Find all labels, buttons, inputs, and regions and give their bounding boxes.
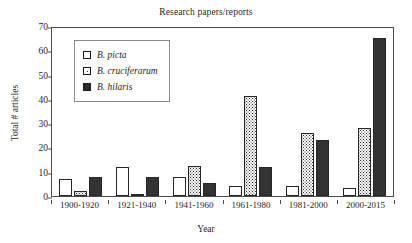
bar [343,188,356,197]
legend-label: B. picta [97,50,127,60]
bar [358,128,371,196]
y-tick-label: 20 [39,145,49,155]
chart-figure: Research papers/reports Total # articles… [0,0,412,243]
x-axis-ticks: 1900-19201921-19401941-19601961-19801981… [51,200,394,210]
bar [316,140,329,196]
x-tick-mark [280,200,281,204]
legend-swatch-icon [83,51,91,59]
bar [301,133,314,196]
bar [188,166,201,196]
x-tick-label: 1900-1920 [51,200,108,210]
y-axis-label: Total # articles [10,65,20,161]
x-tick-mark [337,200,338,204]
x-tick-label: 2000-2015 [337,200,394,210]
legend-label: B. hilaris [97,82,132,92]
y-tick-label: 50 [39,72,49,82]
bar [89,177,102,196]
legend-swatch-icon [83,67,91,75]
legend-swatch-icon [83,83,91,91]
bar [286,186,299,196]
y-tick-label: 40 [39,96,49,106]
chart-legend: B. pictaB. cruciferarumB. hilaris [74,40,170,102]
bar-group [336,28,393,196]
bar [173,177,186,196]
x-tick-mark [108,200,109,204]
y-tick-label: 60 [39,48,49,58]
bar [116,167,129,196]
y-tick-label: 10 [39,169,49,179]
y-tick-mark [48,198,52,199]
x-tick-mark [165,200,166,204]
bar [229,186,242,196]
bar [59,179,72,196]
bar-group [279,28,336,196]
x-tick-label: 1981-2000 [280,200,337,210]
x-tick-label: 1921-1940 [108,200,165,210]
bar [146,177,159,196]
bar-group [166,28,223,196]
legend-item[interactable]: B. cruciferarum [83,63,158,79]
x-tick-mark [394,200,395,204]
legend-item[interactable]: B. hilaris [83,79,158,95]
bar [203,183,216,196]
x-tick-label: 1961-1980 [223,200,280,210]
bar [373,38,386,196]
x-tick-mark [51,200,52,204]
x-tick-mark [223,200,224,204]
bar-group [222,28,279,196]
legend-label: B. cruciferarum [97,66,158,76]
y-tick-label: 70 [39,23,49,33]
y-tick-label: 30 [39,120,49,130]
chart-title: Research papers/reports [0,7,412,17]
bar [74,191,87,196]
bar [131,194,144,196]
bar [259,167,272,196]
x-tick-label: 1941-1960 [165,200,222,210]
x-axis-label: Year [0,224,412,234]
legend-item[interactable]: B. picta [83,47,158,63]
bar [244,96,257,196]
